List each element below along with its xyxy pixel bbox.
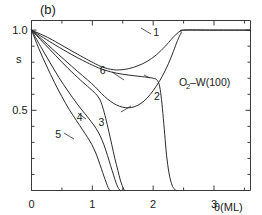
curve-label-3: 3 bbox=[99, 116, 105, 128]
leader-1 bbox=[141, 28, 151, 34]
curve-label-5: 5 bbox=[55, 128, 61, 140]
chart-svg: 123456 0123 0.51.0 (b) s θ(ML) O 2 –W(10… bbox=[0, 0, 262, 215]
x-tick-label-2: 2 bbox=[150, 198, 156, 210]
y-tick-label-1: 1.0 bbox=[12, 24, 27, 36]
x-tick-label-0: 0 bbox=[28, 198, 34, 210]
y-axis-title: s bbox=[16, 53, 22, 65]
leader-5 bbox=[64, 133, 74, 139]
y-tick-labels: 0.51.0 bbox=[12, 24, 27, 116]
curve-labels: 123456 bbox=[55, 26, 160, 140]
curve-label-2: 2 bbox=[154, 90, 160, 102]
annotation-post: –W(100) bbox=[190, 76, 230, 88]
panel-label: (b) bbox=[40, 2, 56, 17]
curve-6 bbox=[32, 30, 251, 108]
curve-label-6: 6 bbox=[100, 64, 106, 76]
curve-set bbox=[32, 30, 251, 191]
figure-panel: 123456 0123 0.51.0 (b) s θ(ML) O 2 –W(10… bbox=[0, 0, 262, 215]
curve-label-1: 1 bbox=[153, 26, 159, 38]
curve-label-4: 4 bbox=[77, 111, 83, 123]
sample-annotation: O 2 –W(100) bbox=[179, 76, 230, 91]
x-axis-title: θ(ML) bbox=[214, 201, 243, 213]
plot-frame bbox=[32, 21, 251, 191]
y-tick-label-0: 0.5 bbox=[12, 104, 27, 116]
axes-frame bbox=[32, 21, 251, 191]
x-tick-labels: 0123 bbox=[28, 198, 217, 210]
x-tick-label-1: 1 bbox=[89, 198, 95, 210]
axis-ticks bbox=[32, 21, 251, 191]
